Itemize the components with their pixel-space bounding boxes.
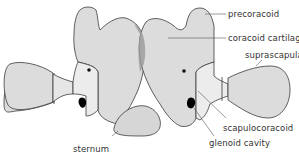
label-suprascapula: suprascapula xyxy=(245,50,299,60)
label-coracoid-cartilage: coracoid cartilage xyxy=(228,33,299,43)
pectoral-girdle-diagram xyxy=(0,0,299,159)
label-scapulocoracoid: scapulocoracoid xyxy=(223,123,293,133)
label-precoracoid: precoracoid xyxy=(228,9,279,19)
label-sternum: sternum xyxy=(73,144,109,154)
right-suprascapula xyxy=(228,66,290,118)
left-scapulocoracoid xyxy=(53,74,73,102)
left-glenoid-cavity xyxy=(79,97,87,107)
label-glenoid-cavity: glenoid cavity xyxy=(209,138,270,148)
